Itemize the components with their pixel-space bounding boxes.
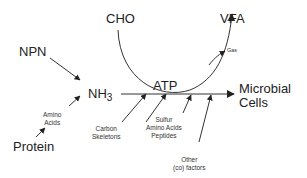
carbon-skeletons-arrow-1: [122, 94, 146, 122]
nh3-base: NH: [88, 86, 107, 101]
npn-arrow: [50, 58, 80, 80]
sulfur-line2: Amino Acids: [146, 124, 182, 132]
other-cofactors-arrow: [199, 95, 211, 142]
atp-label: ATP: [153, 79, 177, 92]
sulfur-line3: Peptides: [146, 132, 182, 140]
nh3-subscript: 3: [107, 92, 113, 103]
amino-acids-line2: Acids: [43, 119, 61, 127]
cells-line: Cells: [239, 96, 291, 110]
npn-label: NPN: [19, 45, 46, 58]
gas-arrow: [209, 51, 225, 65]
amino-acids-line1: Amino: [43, 111, 61, 119]
gas-label: Gas: [227, 48, 237, 54]
carbon-skeletons-label: CarbonSkeletons: [92, 125, 121, 141]
carbon-skeletons-line2: Skeletons: [92, 133, 121, 141]
microbial-cells-label: MicrobialCells: [239, 82, 291, 109]
protein-arrow: [36, 128, 45, 137]
nh3-label: NH3: [88, 87, 112, 103]
vfa-label: VFA: [220, 12, 245, 25]
microbial-line: Microbial: [239, 82, 291, 96]
carbon-skeletons-line1: Carbon: [92, 125, 121, 133]
sulfur-amino-acids-peptides-label: SulfurAmino AcidsPeptides: [146, 116, 182, 140]
sulfur-arrow: [183, 95, 191, 113]
other-cofactors-label: Other(co) factors: [173, 156, 206, 172]
sulfur-line1: Sulfur: [146, 116, 182, 124]
amino-acids-arrow: [69, 96, 80, 106]
other-line2: (co) factors: [173, 164, 206, 172]
protein-label: Protein: [13, 140, 54, 153]
cho-label: CHO: [106, 12, 135, 25]
amino-acids-label: AminoAcids: [43, 111, 61, 127]
other-line1: Other: [173, 156, 206, 164]
